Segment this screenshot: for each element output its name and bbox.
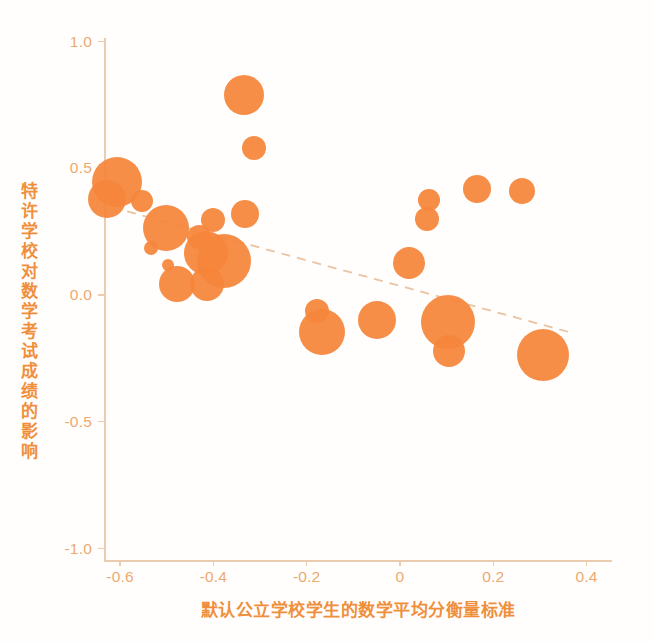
scatter-bubble[interactable] (517, 329, 569, 381)
scatter-bubble[interactable] (201, 208, 225, 232)
scatter-bubble[interactable] (88, 180, 126, 218)
scatter-bubble[interactable] (415, 207, 439, 231)
scatter-bubble[interactable] (393, 247, 425, 279)
scatter-bubble[interactable] (242, 136, 266, 160)
scatter-bubble[interactable] (144, 241, 158, 255)
scatter-bubble[interactable] (224, 75, 264, 115)
scatter-bubble[interactable] (509, 178, 535, 204)
bubble-chart-figure: 1.00.50.0-0.5-1.0 -0.6-0.4-0.200.20.4 特许… (0, 0, 654, 643)
scatter-bubble[interactable] (358, 301, 396, 339)
scatter-bubble[interactable] (197, 234, 251, 288)
scatter-bubble[interactable] (131, 190, 153, 212)
scatter-bubble[interactable] (463, 175, 491, 203)
scatter-bubble[interactable] (231, 200, 259, 228)
scatter-bubble[interactable] (433, 335, 465, 367)
scatter-bubble[interactable] (299, 309, 345, 355)
